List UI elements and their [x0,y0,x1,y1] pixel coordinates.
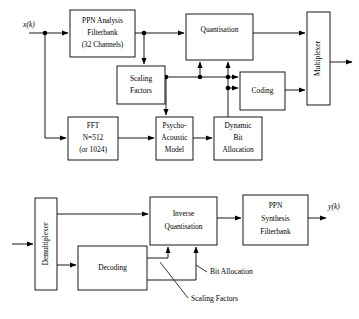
ppn-analysis-line2: Filterbank [87,28,118,37]
ppn-synthesis-line2: Synthesis [261,214,289,223]
psycho-line3: Model [165,145,184,154]
ppn-analysis-line3: (32 Channels) [82,40,124,49]
leader-bit-allocation [196,265,207,272]
dba-line3: Allocation [222,145,254,154]
fft-line3: (or 1024) [79,145,107,154]
input-signal-label: x(k) [22,20,35,29]
junction-dot-dba-scaling-cross [226,75,231,80]
inverse-quantisation-line2: Quantisation [165,222,203,231]
wire-decoding-scaling-to-inverse-quantisation [147,247,168,258]
scaling-factors-line1: Scaling [130,74,152,83]
decoding-label: Decoding [98,263,127,272]
dba-line2: Bit [233,133,243,142]
block-quantisation [186,14,253,60]
ppn-synthesis-line1: PPN [269,201,283,210]
annotation-bit-allocation: Bit Allocation [210,267,253,276]
diagram-canvas: PPN Analysis Filterbank (32 Channels) Qu… [0,0,359,319]
multiplexer-label: Multiplexer [313,41,322,76]
ppn-analysis-line1: PPN Analysis [82,16,123,25]
quantisation-label: Quantisation [201,25,239,34]
annotation-scaling-factors: Scaling Factors [191,294,238,303]
dba-line1: Dynamic [224,121,252,130]
output-signal-label: y(k) [327,202,340,211]
demultiplexer-label: Demultiplexer [41,222,50,265]
scaling-factors-line2: Factors [130,86,152,95]
psycho-line1: Psycho- [163,121,187,130]
coding-label: Coding [252,86,274,95]
block-diagram: PPN Analysis Filterbank (32 Channels) Qu… [0,0,359,319]
fft-line1: FFT [87,121,100,130]
inverse-quantisation-line1: Inverse [173,209,195,218]
wire-decoding-bitalloc-to-inverse-quantisation [147,247,196,280]
wire-input-to-fft [45,33,66,138]
fft-line2: N=512 [83,133,104,142]
ppn-synthesis-line3: Filterbank [260,227,291,236]
psycho-line2: Acoustic [161,133,188,142]
